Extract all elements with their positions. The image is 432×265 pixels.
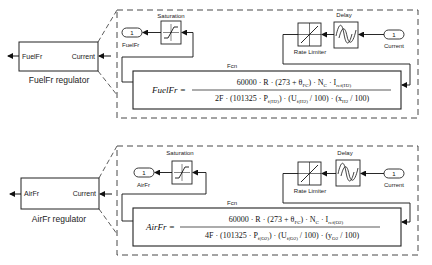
air-rate-limiter-label: Rate Limiter xyxy=(294,188,326,194)
air-outport-name: AirFr xyxy=(137,182,150,188)
simulink-diagram: FuelFr Current FuelFr regulator 1 FuelFr… xyxy=(0,0,432,265)
fuel-rate-limiter-label: Rate Limiter xyxy=(294,49,326,55)
air-saturation-block[interactable] xyxy=(172,161,192,184)
fuel-fcn-label: Fcn xyxy=(227,63,237,69)
fuel-inport-name: Current xyxy=(384,43,404,49)
air-equation-lhs: AirFr = xyxy=(145,222,175,232)
fuel-delay-block[interactable] xyxy=(334,22,358,48)
air-fcn-label: Fcn xyxy=(227,200,237,206)
fuel-equation-numerator: 60000 · R · (273 + θFC) · NC · Iref(H2) xyxy=(237,78,352,88)
air-saturation-label: Saturation xyxy=(166,150,193,156)
fuel-outport-name: FuelFr xyxy=(122,42,139,48)
air-regulator-group: AirFr Current AirFr regulator 1 AirFr Sa… xyxy=(10,146,418,255)
air-delay-block[interactable] xyxy=(336,160,360,186)
fuel-saturation-label: Saturation xyxy=(157,13,184,19)
air-zoom-guide-top xyxy=(99,146,117,178)
air-zoom-guide-bottom xyxy=(99,209,117,234)
fuel-regulator-group: FuelFr Current FuelFr regulator 1 FuelFr… xyxy=(8,10,418,118)
fuel-equation-lhs: FuelFr = xyxy=(151,85,186,95)
fuel-rate-limiter-block[interactable] xyxy=(298,23,321,46)
fuel-regulator-label: FuelFr regulator xyxy=(29,75,90,85)
fuel-zoom-guide-top xyxy=(98,10,117,42)
air-delay-label: Delay xyxy=(337,150,352,156)
air-rate-limiter-block[interactable] xyxy=(298,162,321,185)
air-block-out-port-label: AirFr xyxy=(24,190,40,197)
fuel-block-out-port-label: FuelFr xyxy=(22,53,43,60)
fuel-delay-label: Delay xyxy=(336,12,351,18)
air-block-in-port-label: Current xyxy=(73,190,96,197)
air-regulator-label: AirFr regulator xyxy=(32,214,86,224)
fuel-block-in-port-label: Current xyxy=(72,53,95,60)
air-inport-name: Current xyxy=(384,182,404,188)
air-equation-numerator: 60000 · R · (273 + θFC) · NC · Iref(O2) xyxy=(229,215,344,225)
fuel-zoom-guide-bottom xyxy=(98,71,117,95)
fuel-saturation-block[interactable] xyxy=(161,21,181,44)
